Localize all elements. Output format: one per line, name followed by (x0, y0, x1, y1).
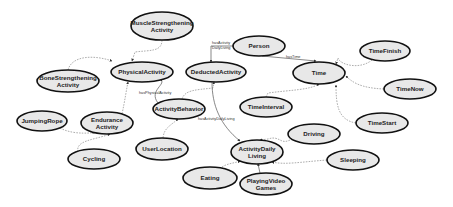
edge-endurance-physical (122, 82, 128, 114)
edge-timefinish-time (336, 58, 372, 66)
node-timeinterval[interactable]: TimeInterval (240, 97, 292, 117)
node-adl[interactable]: ActivityDailyLiving (231, 140, 283, 164)
node-label: TimeNow (396, 85, 424, 92)
node-label: TimeFinish (369, 47, 402, 54)
node-label: PhysicalActivity (118, 68, 166, 75)
edge-bone-physical (68, 57, 112, 70)
node-playing[interactable]: PlayingVideoGames (240, 173, 292, 195)
node-userlocation[interactable]: UserLocation (136, 138, 188, 160)
node-physical[interactable]: PhysicalActivity (111, 62, 173, 82)
node-label: Activity (96, 123, 119, 130)
node-label: UserLocation (142, 145, 182, 152)
node-timefinish[interactable]: TimeFinish (360, 41, 410, 61)
edge-behavior-deducted (182, 82, 214, 99)
node-time[interactable]: Time (293, 62, 345, 84)
nodes: MuscleStrengtheningActivityPhysicalActiv… (17, 12, 436, 195)
node-timenow[interactable]: TimeNow (384, 79, 436, 99)
edge-label-hastime: hasTime (286, 55, 300, 59)
node-label: TimeStart (368, 119, 396, 126)
node-label: Eating (201, 174, 220, 181)
edge-deducted-adl (212, 82, 240, 141)
edge-userlocation-behavior (163, 119, 178, 138)
edge-timestart-time (336, 85, 356, 123)
ontology-diagram: hasActivity DailyLiving hasTime hasPhysi… (0, 0, 453, 207)
node-muscle[interactable]: MuscleStrengtheningActivity (131, 12, 194, 40)
edge-label-hasactivitydailyliving: hasActivityDailyLiving (198, 117, 235, 121)
node-eating[interactable]: Eating (183, 167, 237, 189)
diagram-svg: hasActivity DailyLiving hasTime hasPhysi… (0, 0, 453, 207)
node-bone[interactable]: BoneStrengtheningActivity (37, 70, 99, 92)
edge-label-hasphysicalactivity: hasPhysicalActivity (139, 91, 171, 95)
node-label: Sleeping (340, 156, 366, 163)
node-label: JumpingRope (21, 117, 63, 124)
node-label: PlayingVideo (247, 177, 286, 184)
node-jumping[interactable]: JumpingRope (17, 111, 67, 131)
node-label: Driving (303, 130, 325, 137)
node-label: Games (256, 184, 277, 191)
node-label: MuscleStrengthening (131, 19, 194, 26)
edge-label-hasactivity-line1: hasActivity (212, 41, 230, 45)
edge-muscle-physical (132, 40, 162, 61)
node-timestart[interactable]: TimeStart (356, 113, 408, 133)
node-cycling[interactable]: Cycling (68, 149, 120, 169)
node-person[interactable]: Person (233, 36, 285, 56)
node-label: TimeInterval (248, 103, 285, 110)
edge-playing-adl (258, 164, 260, 173)
edge-timenow-time (346, 76, 384, 89)
node-label: Time (312, 69, 327, 76)
node-label: Activity (57, 81, 80, 88)
node-label: Activity (151, 26, 174, 33)
node-behavior[interactable]: ActivityBehavior (153, 99, 205, 119)
node-deducted[interactable]: DeductedActivity (186, 62, 246, 82)
node-label: ActivityBehavior (155, 105, 204, 112)
node-sleeping[interactable]: Sleeping (327, 150, 379, 170)
node-label: BoneStrengthening (39, 74, 97, 81)
edge-eating-adl (222, 161, 240, 167)
node-label: Cycling (83, 155, 106, 162)
node-driving[interactable]: Driving (288, 124, 340, 144)
node-label: Living (248, 152, 266, 159)
node-label: Endurance (91, 116, 124, 123)
edge-timeinterval-time (266, 84, 319, 97)
node-label: Person (249, 42, 270, 49)
edge-sleeping-adl (272, 160, 327, 163)
node-label: ActivityDaily (238, 145, 276, 152)
edge-label-hasactivity-line2: DailyLiving (212, 46, 230, 50)
node-endurance[interactable]: EnduranceActivity (81, 112, 133, 134)
node-label: DeductedActivity (191, 68, 242, 75)
